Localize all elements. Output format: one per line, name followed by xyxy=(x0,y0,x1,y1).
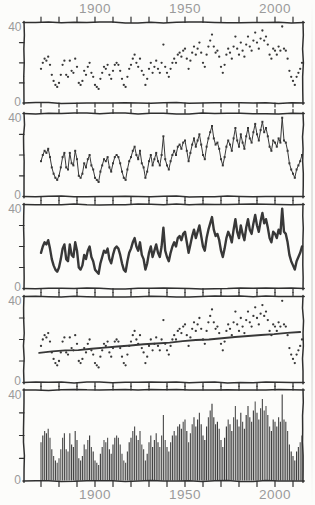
data-marker xyxy=(105,160,107,162)
data-point xyxy=(135,62,137,64)
data-marker xyxy=(90,164,92,166)
data-point xyxy=(241,50,243,52)
data-point xyxy=(83,70,85,72)
data-marker xyxy=(229,144,231,146)
data-point xyxy=(277,45,279,47)
data-point xyxy=(94,84,96,86)
frame-right xyxy=(303,204,304,290)
data-point xyxy=(78,360,80,362)
data-point xyxy=(117,64,119,66)
data-point xyxy=(205,54,207,56)
data-point xyxy=(286,334,288,336)
data-marker xyxy=(213,137,215,139)
data-point xyxy=(67,76,69,78)
data-marker xyxy=(193,137,195,139)
data-point xyxy=(148,345,150,347)
data-point xyxy=(222,72,224,74)
data-point xyxy=(232,45,234,47)
data-point xyxy=(270,58,272,60)
data-point xyxy=(52,358,54,360)
data-marker xyxy=(186,150,188,152)
data-point xyxy=(157,68,159,70)
data-marker xyxy=(195,146,197,148)
data-point xyxy=(60,74,62,76)
data-marker xyxy=(243,148,245,150)
data-point xyxy=(290,76,292,78)
data-point xyxy=(236,323,238,325)
data-point xyxy=(173,58,175,60)
data-point xyxy=(276,330,278,332)
data-point xyxy=(184,48,186,50)
data-point xyxy=(292,80,294,82)
data-point xyxy=(58,82,60,84)
data-marker xyxy=(141,162,143,164)
data-point xyxy=(218,332,220,334)
data-point xyxy=(281,300,283,302)
data-point xyxy=(256,317,258,319)
data-point xyxy=(164,66,166,68)
data-marker xyxy=(166,164,168,166)
data-marker xyxy=(292,173,294,175)
data-point xyxy=(227,48,229,50)
data-point xyxy=(166,72,168,74)
data-marker xyxy=(272,140,274,142)
data-marker xyxy=(94,177,96,179)
y-axis-label-min: 0 xyxy=(14,188,21,202)
panel-thick-line-panel: 400 xyxy=(8,201,304,295)
data-marker xyxy=(231,150,233,152)
data-marker xyxy=(215,144,217,146)
data-marker xyxy=(227,140,229,142)
data-point xyxy=(200,328,202,330)
data-point xyxy=(285,325,287,327)
data-point xyxy=(153,66,155,68)
data-point xyxy=(69,336,71,338)
data-point xyxy=(263,39,265,41)
data-point xyxy=(249,45,251,47)
data-marker xyxy=(40,160,42,162)
data-point xyxy=(99,356,101,358)
data-point xyxy=(90,72,92,74)
data-marker xyxy=(139,150,141,152)
data-marker xyxy=(288,162,290,164)
data-point xyxy=(87,343,89,345)
data-point xyxy=(88,338,90,340)
data-marker xyxy=(218,148,220,150)
line-series xyxy=(41,118,302,182)
data-point xyxy=(292,358,294,360)
data-marker xyxy=(51,166,53,168)
data-point xyxy=(209,315,211,317)
data-marker xyxy=(290,169,292,171)
data-marker xyxy=(60,166,62,168)
data-point xyxy=(191,52,193,54)
data-point xyxy=(139,334,141,336)
data-marker xyxy=(188,160,190,162)
data-marker xyxy=(180,148,182,150)
data-marker xyxy=(152,164,154,166)
data-marker xyxy=(155,152,157,154)
data-point xyxy=(114,340,116,342)
data-point xyxy=(225,54,227,56)
data-point xyxy=(61,64,63,66)
data-marker xyxy=(260,129,262,131)
data-marker xyxy=(144,177,146,179)
data-point xyxy=(214,52,216,54)
data-marker xyxy=(252,131,254,133)
data-marker xyxy=(159,164,161,166)
data-point xyxy=(214,328,216,330)
data-point xyxy=(195,330,197,332)
data-marker xyxy=(184,140,186,142)
panel-bar-panel: 400 xyxy=(8,386,304,487)
data-point xyxy=(117,340,119,342)
data-point xyxy=(101,72,103,74)
five-panel-time-series-figure: 190019502000190019502000400400400400400 xyxy=(0,0,315,505)
data-point xyxy=(286,58,288,60)
data-point xyxy=(276,54,278,56)
frame-top xyxy=(23,296,304,297)
data-point xyxy=(231,58,233,60)
y-axis-label-min: 0 xyxy=(14,280,21,294)
data-point xyxy=(216,50,218,52)
data-point xyxy=(79,84,81,86)
data-point xyxy=(42,62,44,64)
data-marker xyxy=(189,152,191,154)
data-point xyxy=(56,86,58,88)
